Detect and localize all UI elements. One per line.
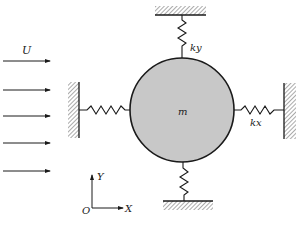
left-wall	[68, 82, 79, 138]
spring-top	[178, 15, 186, 58]
origin-label: O	[82, 205, 90, 216]
stiffness-y-label: ky	[190, 42, 202, 53]
bottom-wall	[163, 201, 213, 210]
spring-mass-diagram: U ky kx m	[0, 0, 303, 226]
stiffness-x-label: kx	[250, 117, 262, 128]
mass-label: m	[178, 106, 187, 117]
flow-arrows	[3, 61, 50, 171]
spring-left	[79, 106, 131, 114]
x-axis-label: X	[124, 203, 133, 214]
spring-bottom	[180, 162, 188, 201]
y-axis-label: Y	[97, 171, 105, 182]
spring-right	[233, 106, 284, 114]
right-wall	[284, 83, 296, 139]
top-wall	[155, 6, 206, 15]
flow-velocity-label: U	[22, 44, 32, 57]
